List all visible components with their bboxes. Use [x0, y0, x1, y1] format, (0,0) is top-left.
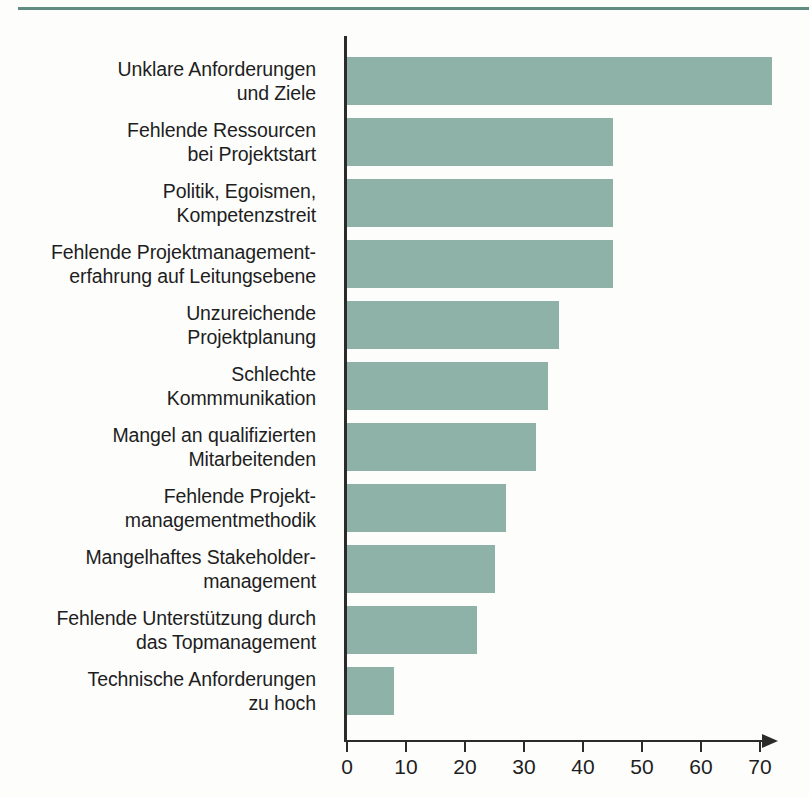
category-label-line: Schlechte	[231, 362, 316, 386]
bar-row: Fehlende Projektmanagement-erfahrung auf…	[0, 233, 809, 294]
x-axis-tick	[523, 741, 525, 752]
bar-row: Fehlende Projekt-managementmethodik	[0, 477, 809, 538]
x-axis-tick-label: 30	[494, 755, 554, 779]
category-label: Politik, Egoismen,Kompetenzstreit	[0, 172, 330, 233]
x-axis-line	[344, 740, 766, 742]
x-axis-tick	[405, 741, 407, 752]
bar	[347, 57, 772, 105]
category-label-line: Kommmunikation	[167, 386, 316, 410]
category-label-line: Mitarbeitenden	[188, 447, 316, 471]
category-label-line: managementmethodik	[125, 508, 316, 532]
category-label-line: Fehlende Projekt-	[164, 484, 316, 508]
x-axis-tick	[346, 741, 348, 752]
x-axis-tick-label: 60	[671, 755, 731, 779]
x-axis-tick-label: 70	[730, 755, 790, 779]
category-label-line: das Topmanagement	[136, 630, 316, 654]
category-label: Fehlende Unterstützung durchdas Topmanag…	[0, 599, 330, 660]
bar	[347, 606, 477, 654]
category-label: Fehlende Ressourcenbei Projektstart	[0, 111, 330, 172]
x-axis-tick-label: 50	[612, 755, 672, 779]
category-label-line: Fehlende Unterstützung durch	[56, 606, 316, 630]
category-label: SchlechteKommmunikation	[0, 355, 330, 416]
category-label-line: bei Projektstart	[188, 142, 316, 166]
category-label-line: Kompetenzstreit	[177, 203, 316, 227]
bar-row: Mangelhaftes Stakeholder-management	[0, 538, 809, 599]
bar-row: SchlechteKommmunikation	[0, 355, 809, 416]
category-label: Technische Anforderungenzu hoch	[0, 660, 330, 721]
category-label: Mangel an qualifiziertenMitarbeitenden	[0, 416, 330, 477]
x-axis-tick	[759, 741, 761, 752]
bar	[347, 118, 613, 166]
horizontal-bar-chart: Unklare Anforderungenund ZieleFehlende R…	[0, 0, 809, 797]
bar	[347, 240, 613, 288]
x-axis-tick	[641, 741, 643, 752]
category-label: UnzureichendeProjektplanung	[0, 294, 330, 355]
bar	[347, 667, 394, 715]
bar-row: Fehlende Ressourcenbei Projektstart	[0, 111, 809, 172]
category-label: Unklare Anforderungenund Ziele	[0, 50, 330, 111]
category-label: Mangelhaftes Stakeholder-management	[0, 538, 330, 599]
bar	[347, 484, 506, 532]
x-axis-tick	[464, 741, 466, 752]
category-label-line: management	[203, 569, 316, 593]
category-label-line: Unzureichende	[186, 301, 316, 325]
category-label: Fehlende Projekt-managementmethodik	[0, 477, 330, 538]
x-axis-arrow-icon	[762, 734, 778, 748]
x-axis-tick-label: 0	[317, 755, 377, 779]
category-label-line: erfahrung auf Leitungsebene	[69, 264, 316, 288]
category-label-line: und Ziele	[237, 81, 316, 105]
category-label-line: Technische Anforderungen	[87, 667, 316, 691]
category-label: Fehlende Projektmanagement-erfahrung auf…	[0, 233, 330, 294]
category-label-line: zu hoch	[248, 691, 316, 715]
bar	[347, 301, 559, 349]
bar-row: Unklare Anforderungenund Ziele	[0, 50, 809, 111]
chart-page: Unklare Anforderungenund ZieleFehlende R…	[0, 0, 809, 797]
x-axis-tick-label: 10	[376, 755, 436, 779]
category-label-line: Mangel an qualifizierten	[112, 423, 316, 447]
bar-row: Fehlende Unterstützung durchdas Topmanag…	[0, 599, 809, 660]
bar-row: UnzureichendeProjektplanung	[0, 294, 809, 355]
x-axis-tick-label: 40	[553, 755, 613, 779]
x-axis-tick	[700, 741, 702, 752]
bar-row: Politik, Egoismen,Kompetenzstreit	[0, 172, 809, 233]
x-axis-tick-label: 20	[435, 755, 495, 779]
bar	[347, 179, 613, 227]
bar	[347, 423, 536, 471]
bar	[347, 545, 495, 593]
x-axis-tick	[582, 741, 584, 752]
category-label-line: Projektplanung	[187, 325, 316, 349]
category-label-line: Unklare Anforderungen	[118, 57, 316, 81]
bar	[347, 362, 548, 410]
category-label-line: Fehlende Ressourcen	[127, 118, 316, 142]
category-label-line: Politik, Egoismen,	[163, 179, 316, 203]
bar-row: Mangel an qualifiziertenMitarbeitenden	[0, 416, 809, 477]
category-label-line: Mangelhaftes Stakeholder-	[85, 545, 316, 569]
bar-row: Technische Anforderungenzu hoch	[0, 660, 809, 721]
category-label-line: Fehlende Projektmanagement-	[51, 240, 316, 264]
